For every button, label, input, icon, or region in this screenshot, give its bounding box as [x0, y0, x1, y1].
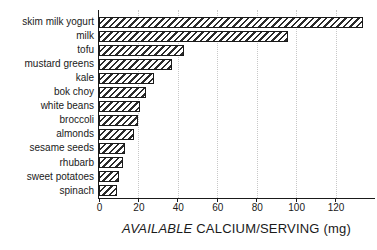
- category-labels: skim milk yogurtmilktofumustard greenska…: [0, 0, 94, 250]
- x-axis-label-part: AVAILABLE: [122, 221, 192, 236]
- x-tick-labels: 020406080100120: [100, 203, 376, 215]
- x-tick-label: 60: [212, 203, 223, 213]
- calcium-availability-bar-chart: skim milk yogurtmilktofumustard greenska…: [0, 0, 377, 250]
- x-tick-label: 40: [173, 203, 184, 213]
- gridline: [296, 10, 297, 198]
- x-tick-label: 120: [328, 203, 345, 213]
- category-label: spinach: [60, 186, 94, 196]
- category-label: almonds: [56, 129, 94, 139]
- bar: [99, 59, 172, 70]
- category-label: tofu: [77, 45, 94, 55]
- bar: [99, 45, 184, 56]
- bar: [99, 31, 288, 42]
- bar: [99, 143, 125, 154]
- category-label: kale: [76, 73, 94, 83]
- category-label: sweet potatoes: [27, 172, 94, 182]
- plot-area: [98, 10, 375, 199]
- x-axis-label: AVAILABLE CALCIUM/SERVING (mg): [98, 221, 375, 236]
- category-label: mustard greens: [25, 59, 94, 69]
- bar: [99, 87, 146, 98]
- x-tick-label: 20: [133, 203, 144, 213]
- category-label: sesame seeds: [30, 143, 94, 153]
- x-tick-label: 100: [288, 203, 305, 213]
- bar: [99, 17, 363, 28]
- category-label: rhubarb: [60, 158, 94, 168]
- x-axis-label-part: CALCIUM/SERVING (mg): [192, 221, 351, 236]
- bar: [99, 73, 154, 84]
- category-label: milk: [76, 31, 94, 41]
- category-label: white beans: [41, 101, 94, 111]
- bar: [99, 129, 134, 140]
- category-label: broccoli: [60, 115, 94, 125]
- bar: [99, 171, 119, 182]
- gridline: [336, 10, 337, 198]
- category-label: bok choy: [54, 87, 94, 97]
- bar: [99, 115, 138, 126]
- bar: [99, 157, 123, 168]
- bar: [99, 101, 140, 112]
- bar: [99, 185, 117, 196]
- x-tick-label: 0: [97, 203, 103, 213]
- category-label: skim milk yogurt: [22, 17, 94, 27]
- x-tick-label: 80: [252, 203, 263, 213]
